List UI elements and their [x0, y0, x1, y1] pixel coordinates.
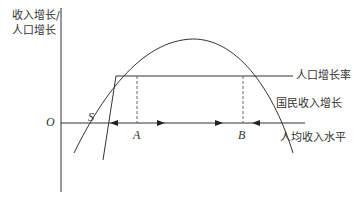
national-income-growth-label: 国民收入增长: [276, 97, 342, 110]
origin-label: O: [46, 116, 55, 129]
y-axis-label-line1: 收入增长/: [12, 9, 60, 22]
x-axis-label: 人均收入水平: [280, 131, 346, 144]
arrow-right-icon: [215, 120, 223, 126]
point-b-label: B: [238, 129, 245, 142]
point-a-label: A: [133, 129, 140, 142]
arrow-left-icon: [252, 120, 260, 126]
arrow-left-icon: [110, 120, 118, 126]
arrow-right-icon: [157, 120, 165, 126]
population-growth-label: 人口增长率: [296, 69, 351, 82]
y-axis-label-line2: 人口增长: [12, 24, 56, 37]
point-s-label: S: [88, 111, 94, 124]
